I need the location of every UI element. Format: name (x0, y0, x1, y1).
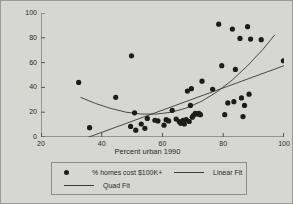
y-tick-label: 40 (19, 83, 37, 90)
scatter-point (240, 114, 245, 119)
y-tick-label: 60 (19, 59, 37, 66)
scatter-point (245, 24, 250, 29)
scatter-point (76, 80, 81, 85)
chart-legend: % homes cost $100K+ Linear Fit Quad Fit (51, 162, 247, 195)
scatter-point (161, 123, 166, 128)
legend-line-icon-quad (64, 185, 94, 186)
scatter-point (188, 103, 193, 108)
scatter-point (132, 110, 137, 115)
legend-dot-icon (64, 170, 69, 175)
scatter-point (189, 86, 194, 91)
scatter-point (133, 128, 138, 133)
scatter-point (128, 124, 133, 129)
y-tick-label: 100 (19, 9, 37, 16)
scatter-point (166, 118, 171, 123)
scatter-point (231, 99, 236, 104)
legend-line-icon-linear (174, 172, 204, 173)
scatter-point (216, 22, 221, 27)
linear-fit-line (80, 66, 284, 137)
axis-lines (41, 13, 284, 137)
legend-entry-quad: Quad Fit (64, 179, 130, 192)
scatter-point (187, 119, 192, 124)
scatter-point (170, 108, 175, 113)
axis-ticks (41, 13, 284, 137)
legend-entry-linear: Linear Fit (174, 166, 242, 179)
quad-fit-curve (80, 35, 274, 114)
scatter-point (242, 103, 247, 108)
y-tick-label: 80 (19, 34, 37, 41)
chart-figure: 100806040200 20406080100 Percent urban 1… (0, 0, 293, 204)
y-tick-label: 20 (19, 108, 37, 115)
x-tick-label: 40 (92, 140, 112, 147)
legend-entry-scatter: % homes cost $100K+ (64, 166, 162, 179)
x-tick-label: 60 (153, 140, 173, 147)
legend-label-scatter: % homes cost $100K+ (92, 169, 162, 176)
scatter-point (230, 27, 235, 32)
legend-label-linear: Linear Fit (213, 169, 242, 176)
y-tick-label: 0 (19, 133, 37, 140)
scatter-point (210, 87, 215, 92)
plot-area: 100806040200 20406080100 (41, 13, 284, 137)
scatter-point (198, 112, 203, 117)
scatter-point (139, 121, 144, 126)
scatter-point (219, 63, 224, 68)
x-axis-title: Percent urban 1990 (1, 147, 293, 156)
scatter-point (237, 36, 242, 41)
scatter-point (281, 58, 284, 63)
scatter-point (259, 37, 264, 42)
scatter-point (129, 53, 134, 58)
x-tick-label: 20 (31, 140, 51, 147)
scatter-point (222, 112, 227, 117)
legend-label-quad: Quad Fit (103, 182, 130, 189)
x-tick-label: 80 (213, 140, 233, 147)
scatter-point (246, 92, 251, 97)
scatter-point (113, 95, 118, 100)
scatter-plot-svg (41, 13, 284, 137)
scatter-point (225, 100, 230, 105)
scatter-point (239, 95, 244, 100)
scatter-point (233, 67, 238, 72)
scatter-point (142, 126, 147, 131)
scatter-point (87, 125, 92, 130)
scatter-point (155, 118, 160, 123)
scatter-point (248, 36, 253, 41)
scatter-point (199, 79, 204, 84)
scatter-point (145, 116, 150, 121)
x-tick-label: 100 (274, 140, 293, 147)
